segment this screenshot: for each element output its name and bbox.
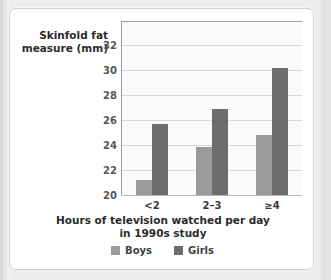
legend-item-girls: Girls <box>174 245 214 256</box>
bar-girls <box>272 68 288 195</box>
y-axis-tick-label: 32 <box>103 39 117 50</box>
bar-boys <box>256 135 272 195</box>
x-axis-title: Hours of television watched per day in 1… <box>38 214 288 240</box>
chart-legend: BoysGirls <box>10 245 315 256</box>
chart-card: Skinfold fat measure (mm) 20222426283032… <box>9 8 314 270</box>
legend-item-boys: Boys <box>111 245 152 256</box>
y-axis-tick-label: 28 <box>103 89 117 100</box>
x-axis-tick-label: ≥4 <box>264 200 279 211</box>
y-axis-tick-label: 20 <box>103 190 117 201</box>
bar-girls <box>152 124 168 195</box>
y-axis-tick-label: 26 <box>103 114 117 125</box>
plot-area: 20222426283032 <22–3≥4 <box>121 21 302 195</box>
bar-group: 2–3 <box>182 22 242 195</box>
bar-group: ≥4 <box>242 22 302 195</box>
y-axis-tick-label: 30 <box>103 64 117 75</box>
x-axis-tick-label: <2 <box>144 200 159 211</box>
bar-chart: Skinfold fat measure (mm) 20222426283032… <box>10 9 315 271</box>
bar-boys <box>136 180 152 195</box>
gridline-y-20 <box>122 195 302 196</box>
bar-group: <2 <box>122 22 182 195</box>
legend-swatch-boys <box>111 246 120 255</box>
y-axis-title-line-2: measure (mm) <box>16 42 108 55</box>
legend-swatch-girls <box>174 246 183 255</box>
bars-layer: <22–3≥4 <box>122 22 302 195</box>
y-axis-tick-label: 22 <box>103 164 117 175</box>
bar-girls <box>212 109 228 196</box>
legend-label: Boys <box>125 245 152 256</box>
x-axis-title-line-2: in 1990s study <box>38 227 288 240</box>
y-axis-tick-label: 24 <box>103 139 117 150</box>
x-axis-title-line-1: Hours of television watched per day <box>38 214 288 227</box>
legend-label: Girls <box>188 245 214 256</box>
y-axis-title: Skinfold fat measure (mm) <box>16 29 108 55</box>
bar-boys <box>196 147 212 195</box>
x-axis-tick-label: 2–3 <box>203 200 222 211</box>
y-axis-title-line-1: Skinfold fat <box>16 29 108 42</box>
